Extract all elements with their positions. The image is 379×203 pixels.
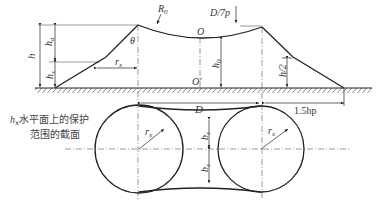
ground [35,88,372,93]
label-rx-right: rx [268,125,276,138]
label-theta: θ [130,35,135,46]
label-1-5hp: 1.5hp [294,105,317,116]
label-rx-left: rx [145,126,153,139]
label-O-prime: O' [192,76,202,87]
label-bx-bottom: bx [199,163,212,172]
protection-zone-diagram: h ha hx rx θ R0 D/7p O O' h0 h/2 D 1.5hp… [0,0,379,203]
caption-line-1: hx水平面上的保护 [10,113,89,127]
label-R0: R0 [157,3,168,16]
label-h: h [25,53,37,59]
label-D-7p: D/7p [209,7,230,18]
caption-line-2: 范围的截面 [30,128,80,140]
label-h-half: h/2 [277,64,288,77]
label-ha: ha [43,37,56,46]
label-rx: rx [115,56,123,69]
plan-section [65,105,350,193]
label-bx-top: bx [199,131,212,140]
label-O: O [197,26,204,37]
label-D: D [194,103,203,115]
